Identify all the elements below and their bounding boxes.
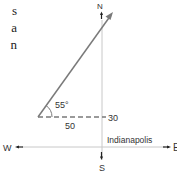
west-arrow-icon (15, 146, 23, 149)
east-label: E (173, 142, 177, 153)
south-arrow-icon (100, 152, 103, 160)
vector-diagram: N S W E 55° 50 30 Indianapolis (0, 0, 177, 178)
angle-label: 55° (55, 100, 69, 110)
west-label: W (3, 143, 12, 153)
south-label: S (99, 163, 105, 173)
horizontal-component-label: 50 (65, 121, 75, 131)
displacement-vector (38, 15, 111, 117)
vector-arrowhead-icon (106, 12, 114, 20)
north-arrow-icon (100, 12, 103, 20)
north-label: N (97, 2, 103, 11)
angle-arc (46, 106, 52, 118)
origin-city-label: Indianapolis (107, 135, 152, 145)
offset-label: 30 (108, 113, 118, 123)
east-arrow-icon (163, 146, 171, 149)
